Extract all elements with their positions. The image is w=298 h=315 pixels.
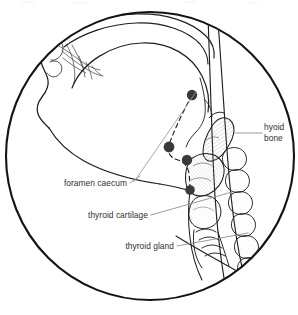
label-hyoid-bone-line1: hyoid (264, 122, 285, 132)
thyroid-gland (189, 196, 221, 229)
label-thyroid-gland: thyroid gland (125, 241, 174, 251)
anatomical-figure: hyoid bone foramen caecum thyroid cartil… (0, 0, 298, 315)
marker-thyroid-gland (185, 185, 195, 195)
label-hyoid-bone-line2: bone (264, 133, 283, 143)
illustration-canvas: hyoid bone foramen caecum thyroid cartil… (0, 0, 298, 315)
marker-duct-lower (182, 155, 192, 165)
label-thyroid-cartilage: thyroid cartilage (88, 210, 148, 220)
label-foramen-caecum: foramen caecum (64, 178, 127, 188)
marker-foramen-caecum (187, 90, 197, 100)
marker-duct-upper (164, 142, 175, 153)
